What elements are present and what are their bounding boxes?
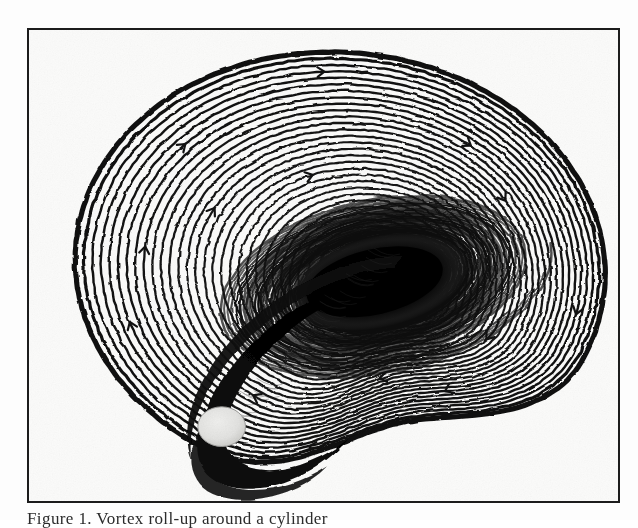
figure-frame [27, 28, 620, 503]
streamline-plot [29, 30, 618, 501]
paper-grain-overlay [29, 30, 618, 501]
figure-caption: Figure 1. Vortex roll-up around a cylind… [27, 510, 620, 528]
